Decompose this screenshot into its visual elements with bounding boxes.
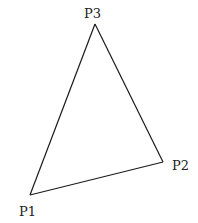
edge-p1-p2 xyxy=(30,162,163,195)
edge-p2-p3 xyxy=(95,24,163,162)
triangle-diagram: P1 P2 P3 xyxy=(0,0,198,223)
vertex-label-p2: P2 xyxy=(172,158,189,173)
edge-p3-p1 xyxy=(30,24,95,195)
vertex-label-p3: P3 xyxy=(84,6,101,21)
vertex-label-p1: P1 xyxy=(19,204,36,219)
